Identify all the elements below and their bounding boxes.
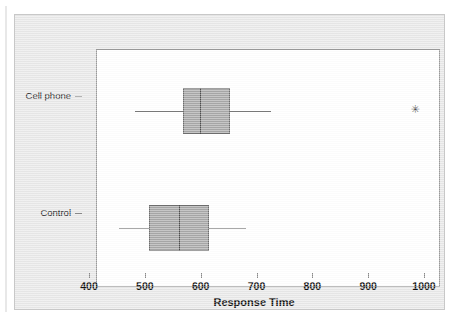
boxplot-figure: ✳ Cell phoneControl 40050060070080090010… (0, 0, 453, 324)
x-tick-mark (368, 273, 369, 278)
plot-area: ✳ (96, 49, 440, 287)
x-tick-mark (312, 273, 313, 278)
x-tick-label: 700 (232, 280, 282, 292)
median-line (200, 88, 201, 134)
box-rect (183, 88, 229, 134)
x-tick-mark (257, 273, 258, 278)
x-tick-mark (89, 273, 90, 278)
x-tick-label: 900 (343, 280, 393, 292)
x-tick-label: 600 (176, 280, 226, 292)
page-edge-rule (5, 6, 7, 312)
x-tick-label: 500 (120, 280, 170, 292)
y-category-label: Cell phone (26, 90, 71, 101)
y-category-label: Control (40, 207, 71, 218)
y-tick-mark (75, 213, 82, 214)
x-tick-label: 400 (64, 280, 114, 292)
x-tick-mark (424, 273, 425, 278)
y-tick-mark (75, 96, 82, 97)
x-tick-mark (145, 273, 146, 278)
median-line (179, 205, 180, 251)
x-tick-label: 1000 (399, 280, 449, 292)
outlier-marker: ✳ (410, 106, 419, 114)
x-tick-label: 800 (287, 280, 337, 292)
figure-panel: ✳ Cell phoneControl 40050060070080090010… (14, 14, 445, 310)
x-tick-mark (201, 273, 202, 278)
x-axis-title: Response Time (82, 296, 426, 308)
